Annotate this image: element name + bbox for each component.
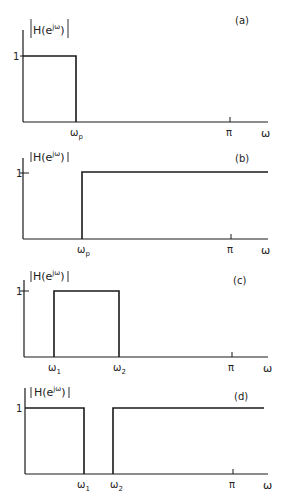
svg-text:H(ejω): H(ejω) [33,269,64,283]
pi-label: π [229,479,235,490]
x-axis-label: ω [261,127,270,140]
unit-label: 1 [16,286,22,297]
edge-label-wp: ωp [70,127,83,141]
y-axis-label: H(ejω) [31,269,68,283]
svg-text:H(ejω): H(ejω) [33,150,64,164]
unit-label: 1 [16,168,22,179]
pi-label: π [228,362,234,373]
edge-label-w2: ω2 [113,362,126,376]
edge-label-w1: ω1 [48,362,61,376]
x-axis-label: ω [263,479,272,492]
panel-b: H(ejω) 1 ωp π ω (b) [16,150,270,258]
unit-label: 1 [13,51,19,62]
response-curve [54,291,119,357]
response-curve [23,56,76,122]
unit-label: 1 [16,403,22,414]
pi-label: π [227,244,233,255]
edge-label-wp: ωp [77,244,90,258]
panel-tag: (d) [234,391,248,402]
y-axis-label: H(ejω) [31,385,69,399]
y-axis-label: H(ejω) [31,19,68,38]
edge-label-w1: ω1 [77,479,90,493]
response-curve-low [25,408,84,474]
response-curve-high [113,408,264,474]
response-curve [82,172,268,239]
y-axis-label: H(ejω) [31,150,68,164]
svg-text:H(ejω): H(ejω) [34,385,65,399]
svg-text:H(ejω): H(ejω) [33,23,64,37]
panel-tag: (c) [233,275,246,286]
panel-c: H(ejω) 1 ω1 ω2 π ω (c) [16,269,272,376]
panel-a: H(ejω) 1 ωp π ω (a) [13,15,270,141]
panel-d: H(ejω) 1 ω1 ω2 π ω (d) [16,385,272,493]
panel-tag: (b) [235,153,249,164]
pi-label: π [226,127,232,138]
x-axis-label: ω [261,244,270,257]
panel-tag: (a) [235,15,249,26]
filter-response-figure: H(ejω) 1 ωp π ω (a) H(ejω) 1 ωp π ω (b) [0,0,290,500]
edge-label-w2: ω2 [110,479,123,493]
x-axis-label: ω [263,362,272,375]
